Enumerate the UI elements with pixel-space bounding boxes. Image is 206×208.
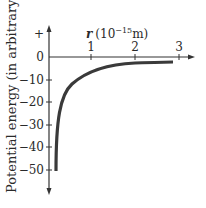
x-tick-label: 2 <box>131 40 139 54</box>
potential-energy-curve <box>56 62 173 171</box>
y-tick-label: −40 <box>19 140 44 154</box>
chart: 1 2 3 + 0 −10 −20 −30 −40 −50 r(10−15m) <box>0 0 206 208</box>
y-tick-label: −30 <box>19 118 44 132</box>
y-tick-label: −10 <box>19 73 44 87</box>
y-axis-label: Potential energy (in arbitrary units) <box>4 0 19 193</box>
x-axis-label: r(10−15m) <box>86 26 148 41</box>
x-tick-label: 3 <box>175 40 183 54</box>
y-tick-label: −50 <box>19 163 44 177</box>
x-axis-arrow-icon <box>188 55 195 60</box>
y-tick-label: + <box>34 27 44 41</box>
x-tick-label: 1 <box>87 40 95 54</box>
y-axis-arrow-down-icon <box>47 188 52 195</box>
y-tick-label: 0 <box>36 50 44 64</box>
y-tick-label: −20 <box>19 95 44 109</box>
y-axis-arrow-up-icon <box>47 25 52 32</box>
